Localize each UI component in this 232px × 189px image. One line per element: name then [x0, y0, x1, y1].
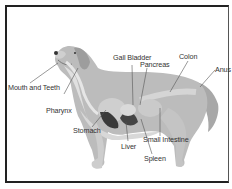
small-intestine-organ — [138, 99, 162, 117]
label-stomach: Stomach — [73, 127, 101, 134]
label-pancreas: Pancreas — [140, 61, 170, 68]
label-anus: Anus — [215, 66, 231, 73]
gall-bladder-organ — [120, 104, 136, 116]
label-spleen: Spleen — [144, 155, 166, 162]
label-mouth-and-teeth: Mouth and Teeth — [8, 84, 60, 91]
dog-body — [54, 46, 218, 169]
label-colon: Colon — [179, 53, 197, 60]
label-liver: Liver — [121, 143, 136, 150]
label-pharynx: Pharynx — [46, 107, 72, 114]
dog-illustration — [0, 0, 232, 189]
label-small-intestine: Small Intestine — [143, 136, 189, 143]
